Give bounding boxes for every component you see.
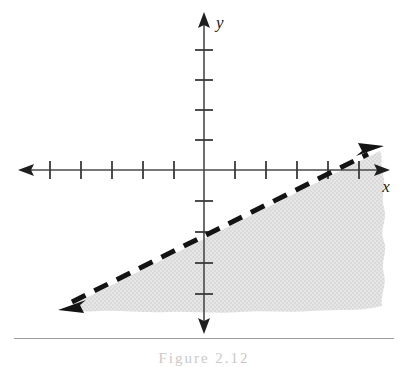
shaded-region	[66, 151, 385, 313]
caption-divider	[14, 338, 394, 339]
x-axis-label: x	[381, 177, 390, 196]
y-axis-label: y	[214, 13, 224, 32]
figure-caption: Figure 2.12	[0, 350, 408, 367]
